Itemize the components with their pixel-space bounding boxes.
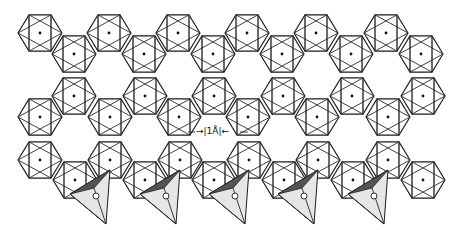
metal-center-dot [387, 159, 390, 162]
tetrahedral-center-ring [163, 193, 169, 199]
tetrahedral-center-ring [232, 193, 238, 199]
metal-center-dot [350, 53, 353, 56]
metal-center-dot [385, 32, 388, 35]
metal-center-dot [283, 179, 286, 182]
polyhedra-drawing [0, 0, 464, 230]
metal-center-dot [248, 159, 251, 162]
scale-right-arrow: ← [222, 126, 230, 136]
scale-value: |1Å| [204, 126, 222, 136]
metal-center-dot [144, 179, 147, 182]
crystal-structure-diagram: →|1Å|← [0, 0, 464, 230]
tetrahedral-center-ring [371, 193, 377, 199]
metal-center-dot [316, 116, 319, 119]
tetrahedral-center-ring [93, 193, 99, 199]
metal-center-dot [109, 116, 112, 119]
metal-center-dot [247, 116, 250, 119]
metal-center-dot [422, 95, 425, 98]
metal-center-dot [39, 159, 42, 162]
metal-center-dot [73, 95, 76, 98]
metal-center-dot [422, 179, 425, 182]
metal-center-dot [246, 32, 249, 35]
metal-center-dot [213, 179, 216, 182]
metal-center-dot [420, 53, 423, 56]
scale-left-arrow: → [196, 126, 204, 136]
metal-center-dot [73, 53, 76, 56]
tetrahedral-center-ring [301, 193, 307, 199]
metal-center-dot [178, 116, 181, 119]
metal-center-dot [39, 32, 42, 35]
metal-center-dot [109, 159, 112, 162]
metal-center-dot [351, 95, 354, 98]
metal-center-dot [143, 53, 146, 56]
scale-bar-label: →|1Å|← [196, 126, 229, 136]
metal-center-dot [212, 53, 215, 56]
metal-center-dot [74, 179, 77, 182]
metal-center-dot [213, 95, 216, 98]
metal-center-dot [317, 159, 320, 162]
metal-center-dot [179, 159, 182, 162]
metal-center-dot [282, 95, 285, 98]
metal-center-dot [315, 32, 318, 35]
metal-center-dot [387, 116, 390, 119]
metal-center-dot [39, 116, 42, 119]
metal-center-dot [352, 179, 355, 182]
metal-center-dot [281, 53, 284, 56]
metal-center-dot [144, 95, 147, 98]
metal-center-dot [108, 32, 111, 35]
metal-center-dot [177, 32, 180, 35]
